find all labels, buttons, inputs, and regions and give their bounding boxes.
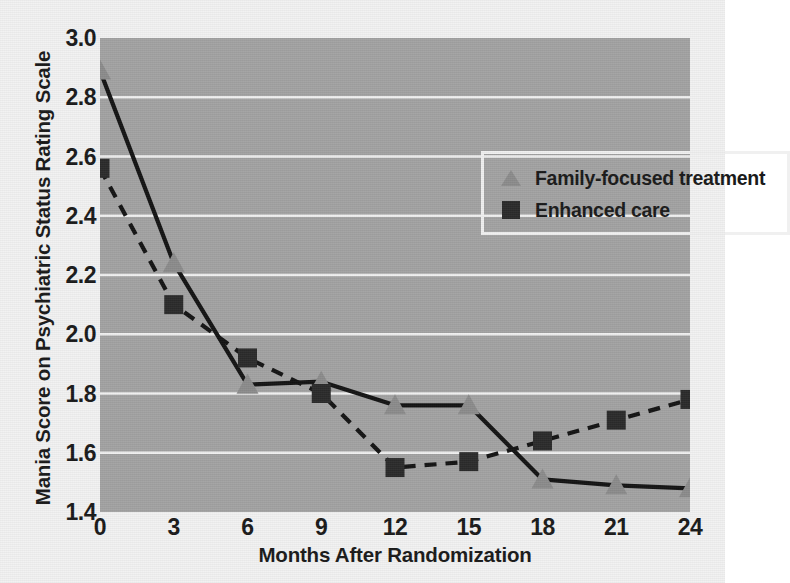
y-tick-label: 1.8	[44, 383, 96, 406]
x-tick-label: 12	[365, 516, 425, 539]
x-tick-label: 9	[291, 516, 351, 539]
square-marker-icon	[100, 159, 110, 178]
x-tick-label: 15	[439, 516, 499, 539]
legend-item-family-focused-treatment: Family-focused treatment	[498, 163, 765, 193]
legend-box: Family-focused treatment Enhanced care	[481, 151, 790, 235]
x-axis-title: Months After Randomization	[100, 543, 690, 567]
data-series-layer	[100, 60, 690, 498]
y-tick-label: 2.6	[44, 146, 96, 169]
y-tick-label: 2.0	[44, 323, 96, 346]
x-tick-label: 6	[218, 516, 278, 539]
square-marker-icon	[164, 295, 183, 314]
square-marker-icon	[459, 452, 478, 471]
y-tick-label: 2.4	[44, 205, 96, 228]
triangle-marker-icon	[498, 165, 524, 191]
legend-label: Family-focused treatment	[535, 167, 765, 190]
legend-label: Enhanced care	[535, 199, 670, 222]
x-tick-label: 0	[70, 516, 130, 539]
legend-item-enhanced-care: Enhanced care	[498, 195, 670, 225]
plot-svg	[100, 38, 690, 512]
x-tick-label: 3	[144, 516, 204, 539]
triangle-marker-icon	[100, 60, 111, 80]
y-tick-label: 2.8	[44, 86, 96, 109]
x-tick-label: 24	[660, 516, 720, 539]
square-marker-icon	[238, 348, 257, 367]
triangle-marker-icon	[163, 252, 185, 272]
plot-area: Family-focused treatment Enhanced care	[100, 38, 690, 512]
y-axis-tick-labels: 3.02.82.62.42.22.01.81.61.4	[36, 0, 96, 583]
x-tick-label: 18	[513, 516, 573, 539]
y-tick-label: 1.6	[44, 442, 96, 465]
square-marker-icon	[386, 458, 405, 477]
series-line	[100, 71, 690, 489]
x-axis-tick-labels: 03691215182124	[0, 516, 725, 546]
square-marker-icon	[533, 431, 552, 450]
square-marker-icon	[607, 411, 626, 430]
x-tick-label: 21	[586, 516, 646, 539]
y-tick-label: 2.2	[44, 264, 96, 287]
square-marker-icon	[312, 384, 331, 403]
square-marker-icon	[681, 390, 691, 409]
y-tick-label: 3.0	[44, 27, 96, 50]
square-marker-icon	[498, 197, 524, 223]
